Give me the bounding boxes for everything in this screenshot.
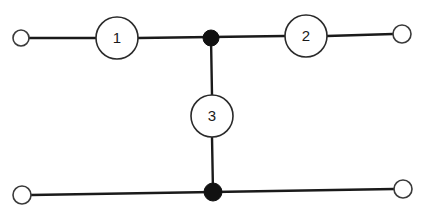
terminal-top-right [393, 25, 411, 43]
wire-top-junction-to-element-2 [211, 36, 285, 37]
wire-bottom-junction-to-bottom-right [213, 189, 394, 192]
wire-top-junction-to-element-3 [211, 38, 212, 95]
element-2: 2 [285, 15, 327, 57]
element-2-label: 2 [302, 27, 310, 44]
wire-bottom-left-to-bottom-junction [31, 192, 213, 195]
two-port-network-diagram: 1 2 3 [0, 0, 423, 216]
wire-element-2-to-top-right [327, 34, 393, 36]
terminal-bottom-left [13, 186, 31, 204]
element-1-label: 1 [113, 29, 121, 46]
element-3-label: 3 [208, 107, 216, 124]
junction-bottom [204, 183, 222, 201]
junction-top [203, 30, 219, 46]
terminal-bottom-right [394, 180, 412, 198]
wire-element-1-to-top-junction [138, 37, 211, 38]
element-3: 3 [191, 95, 233, 137]
element-1: 1 [96, 17, 138, 59]
terminal-top-left [13, 30, 29, 46]
